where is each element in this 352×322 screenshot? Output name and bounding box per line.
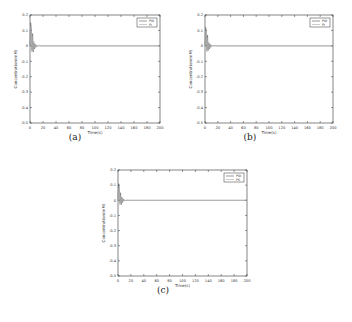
x-tick-label: 40: [142, 279, 147, 283]
chart-svg: 0204060801001201401601802000.20.10-0.1-0…: [0, 0, 352, 322]
x-tick-label: 200: [244, 279, 252, 283]
y-tick-label: 0.2: [110, 168, 116, 172]
y-axis-label: Concentration(mM): [101, 203, 106, 242]
y-tick-label: -0.3: [109, 244, 116, 248]
x-tick-label: 160: [218, 279, 226, 283]
y-tick-label: -0.2: [109, 229, 116, 233]
y-tick-label: 0: [114, 199, 117, 203]
y-tick-label: -0.5: [109, 274, 116, 278]
y-tick-label: -0.4: [109, 259, 117, 263]
x-tick-label: 20: [129, 279, 134, 283]
x-tick-label: 140: [205, 279, 213, 283]
y-tick-label: -0.1: [109, 214, 116, 218]
x-tick-label: 80: [167, 279, 172, 283]
x-tick-label: 60: [154, 279, 159, 283]
x-tick-label: 120: [192, 279, 200, 283]
x-tick-label: 180: [231, 279, 239, 283]
legend-label: PS: [236, 178, 240, 182]
plot-area: [118, 170, 247, 276]
figure-caption-c: (c): [143, 285, 183, 295]
y-tick-label: 0.1: [110, 183, 116, 187]
x-tick-label: 0: [117, 279, 120, 283]
